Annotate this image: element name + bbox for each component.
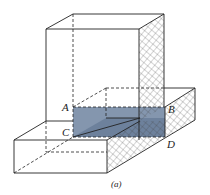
diagram-canvas: A B C D (a) <box>0 0 210 195</box>
label-c: C <box>62 126 70 138</box>
figure-caption: (a) <box>111 179 122 189</box>
label-d: D <box>166 138 175 150</box>
label-a: A <box>61 101 69 113</box>
label-b: B <box>168 103 175 115</box>
column-cut-face <box>139 14 164 121</box>
